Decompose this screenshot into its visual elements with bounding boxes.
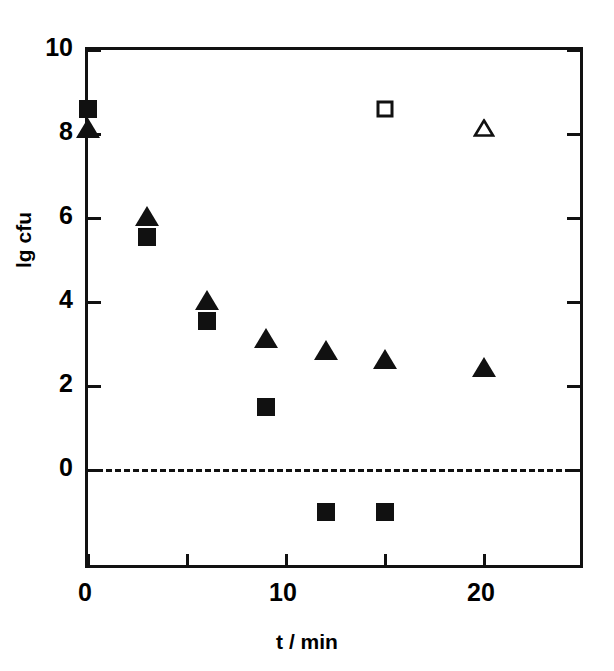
x-axis-title: t / min	[0, 630, 614, 654]
x-tick-mark	[384, 554, 387, 568]
plot-area	[85, 47, 583, 568]
data-point-filled-triangle	[195, 290, 219, 310]
data-point-filled-square	[138, 228, 156, 246]
figure: lg cfu t / min 0246810 01020	[0, 0, 614, 671]
data-point-open-triangle	[473, 118, 495, 137]
y-tick-label: 2	[13, 371, 73, 396]
y-tick-mark	[88, 385, 101, 388]
y-tick-label: 6	[13, 203, 73, 228]
y-tick-label: 8	[13, 119, 73, 144]
x-tick-mark	[186, 554, 189, 568]
y-tick-mark	[88, 217, 101, 220]
data-point-filled-triangle	[472, 357, 496, 377]
y-tick-label: 4	[13, 287, 73, 312]
data-point-filled-square	[198, 312, 216, 330]
y-tick-mark-right	[567, 49, 580, 52]
data-point-filled-triangle	[373, 349, 397, 369]
x-tick-label: 0	[55, 580, 115, 605]
y-tick-mark-right	[567, 385, 580, 388]
x-tick-mark	[87, 554, 90, 568]
y-tick-mark-right	[567, 217, 580, 220]
y-tick-mark	[88, 301, 101, 304]
data-point-filled-triangle	[254, 328, 278, 348]
data-point-filled-triangle	[76, 118, 100, 138]
y-tick-mark-right	[567, 133, 580, 136]
x-tick-mark	[483, 554, 486, 568]
data-point-filled-triangle	[314, 340, 338, 360]
y-tick-label: 10	[13, 35, 73, 60]
data-point-filled-triangle	[135, 206, 159, 226]
data-point-filled-square	[79, 100, 97, 118]
data-point-filled-square	[317, 503, 335, 521]
x-tick-label: 20	[451, 580, 511, 605]
data-point-filled-square	[257, 398, 275, 416]
data-point-open-square	[377, 100, 394, 117]
data-point-filled-square	[376, 503, 394, 521]
y-tick-mark	[88, 49, 101, 52]
x-tick-label: 10	[253, 580, 313, 605]
zero-line	[88, 469, 580, 472]
y-tick-label: 0	[13, 455, 73, 480]
y-tick-mark-right	[567, 301, 580, 304]
x-tick-mark	[285, 554, 288, 568]
